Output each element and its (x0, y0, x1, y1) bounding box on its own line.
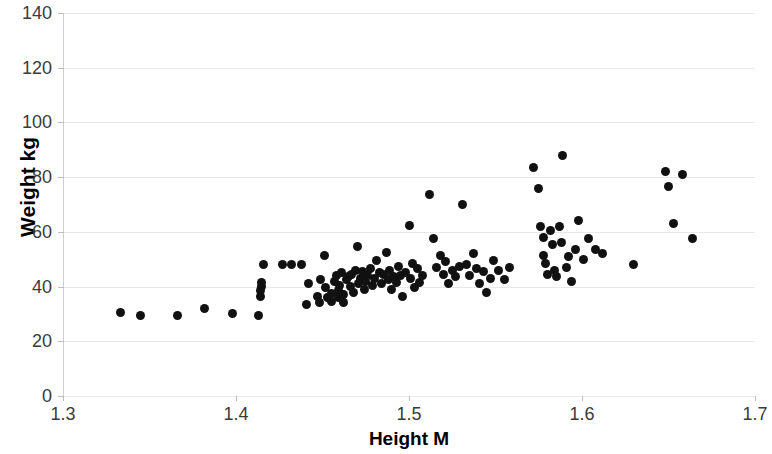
y-axis-tick-label: 140 (0, 3, 52, 24)
data-point (482, 288, 491, 297)
data-point (451, 272, 460, 281)
data-point (320, 251, 329, 260)
data-point (462, 260, 471, 269)
x-axis-tick-label: 1.5 (379, 404, 439, 425)
x-axis-title: Height M (63, 428, 755, 450)
data-point (372, 256, 381, 265)
data-point (489, 256, 498, 265)
x-axis-tick-label: 1.4 (206, 404, 266, 425)
data-point (278, 260, 287, 269)
data-point (349, 288, 358, 297)
data-point (360, 285, 369, 294)
data-point (339, 298, 348, 307)
gridline-horizontal (63, 122, 755, 123)
data-point (297, 260, 306, 269)
gridline-horizontal (63, 177, 755, 178)
x-axis-tick-mark (409, 396, 410, 401)
data-point (116, 308, 125, 317)
data-point (425, 190, 434, 199)
data-point (315, 298, 324, 307)
x-axis-tick-mark (63, 396, 64, 401)
x-axis-tick-mark (755, 396, 756, 401)
data-point (429, 234, 438, 243)
data-point (441, 257, 450, 266)
y-axis-tick-mark (58, 287, 64, 288)
data-point (669, 219, 678, 228)
data-point (678, 170, 687, 179)
data-point (500, 275, 509, 284)
data-point (574, 216, 583, 225)
y-axis-tick-label: 100 (0, 112, 52, 133)
x-axis-tick-mark (582, 396, 583, 401)
y-axis-tick-mark (58, 122, 64, 123)
data-point (469, 249, 478, 258)
data-point (584, 234, 593, 243)
data-point (382, 248, 391, 257)
data-point (688, 234, 697, 243)
data-point (529, 163, 538, 172)
data-point (228, 309, 237, 318)
data-point (664, 182, 673, 191)
data-point (579, 255, 588, 264)
data-point (564, 252, 573, 261)
x-axis-tick-label: 1.6 (552, 404, 612, 425)
data-point (534, 184, 543, 193)
data-point (259, 260, 268, 269)
data-point (136, 311, 145, 320)
data-point (465, 271, 474, 280)
data-point (353, 242, 362, 251)
data-point (661, 167, 670, 176)
data-point (562, 263, 571, 272)
y-axis-tick-mark (58, 13, 64, 14)
data-point (494, 266, 503, 275)
data-point (302, 300, 311, 309)
data-point (458, 200, 467, 209)
data-point (254, 311, 263, 320)
x-axis-tick-mark (236, 396, 237, 401)
data-point (629, 260, 638, 269)
y-axis-tick-label: 120 (0, 57, 52, 78)
data-point (548, 240, 557, 249)
data-point (567, 277, 576, 286)
y-axis-tick-mark (58, 232, 64, 233)
x-axis-tick-label: 1.7 (725, 404, 772, 425)
data-point (552, 272, 561, 281)
y-axis-tick-mark (58, 177, 64, 178)
data-point (536, 222, 545, 231)
data-point (418, 271, 427, 280)
data-point (598, 249, 607, 258)
data-point (405, 221, 414, 230)
data-point (486, 274, 495, 283)
y-axis-tick-labels: 020406080100120140 (0, 0, 52, 454)
gridline-horizontal (63, 13, 755, 14)
data-point (200, 304, 209, 313)
data-point (339, 290, 348, 299)
y-axis-tick-label: 60 (0, 221, 52, 242)
data-point (173, 311, 182, 320)
plot-area (63, 13, 755, 396)
data-point (557, 238, 566, 247)
data-point (558, 151, 567, 160)
x-axis-tick-label: 1.3 (33, 404, 93, 425)
data-point (546, 226, 555, 235)
y-axis-tick-mark (58, 341, 64, 342)
data-point (366, 264, 375, 273)
gridline-horizontal (63, 68, 755, 69)
y-axis-tick-label: 20 (0, 331, 52, 352)
data-point (505, 263, 514, 272)
y-axis-tick-label: 40 (0, 276, 52, 297)
y-axis-tick-mark (58, 68, 64, 69)
data-point (287, 260, 296, 269)
gridline-horizontal (63, 232, 755, 233)
y-axis-tick-label: 80 (0, 167, 52, 188)
data-point (555, 222, 564, 231)
data-point (571, 245, 580, 254)
data-point (406, 274, 415, 283)
data-point (398, 292, 407, 301)
data-point (541, 259, 550, 268)
data-point (439, 270, 448, 279)
gridline-horizontal (63, 341, 755, 342)
